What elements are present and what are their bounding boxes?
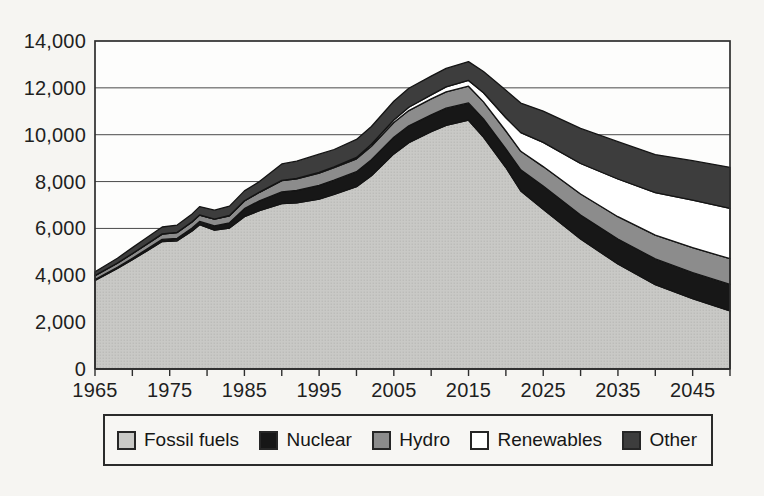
x-tick-label: 2045: [657, 379, 729, 401]
legend-label: Other: [649, 430, 697, 450]
y-tick-label: 2,000: [0, 311, 86, 333]
y-tick-label: 14,000: [0, 30, 86, 52]
legend-item-fossil-fuels: Fossil fuels: [117, 430, 239, 450]
legend-item-hydro: Hydro: [372, 430, 450, 450]
x-tick-label: 1965: [59, 379, 131, 401]
legend-item-renewables: Renewables: [470, 430, 602, 450]
x-tick-label: 2005: [358, 379, 430, 401]
chart-legend: Fossil fuels Nuclear Hydro Renewables Ot…: [103, 414, 713, 466]
y-tick-label: 4,000: [0, 264, 86, 286]
x-tick-label: 2025: [507, 379, 579, 401]
energy-stacked-area-chart: 02,0004,0006,0008,00010,00012,00014,000 …: [0, 0, 764, 496]
x-tick-label: 1975: [134, 379, 206, 401]
legend-item-nuclear: Nuclear: [259, 430, 351, 450]
legend-label: Hydro: [399, 430, 450, 450]
y-tick-label: 0: [0, 358, 86, 380]
other-swatch: [622, 431, 641, 450]
x-tick-label: 1985: [208, 379, 280, 401]
fossil-fuels-swatch: [117, 431, 136, 450]
x-tick-label: 2035: [582, 379, 654, 401]
nuclear-swatch: [259, 431, 278, 450]
legend-label: Nuclear: [286, 430, 351, 450]
legend-item-other: Other: [622, 430, 697, 450]
y-tick-label: 6,000: [0, 217, 86, 239]
legend-label: Renewables: [497, 430, 602, 450]
y-tick-label: 10,000: [0, 124, 86, 146]
y-tick-label: 12,000: [0, 77, 86, 99]
x-tick-label: 1995: [283, 379, 355, 401]
hydro-swatch: [372, 431, 391, 450]
x-tick-label: 2015: [433, 379, 505, 401]
renewables-swatch: [470, 431, 489, 450]
y-tick-label: 8,000: [0, 171, 86, 193]
legend-label: Fossil fuels: [144, 430, 239, 450]
